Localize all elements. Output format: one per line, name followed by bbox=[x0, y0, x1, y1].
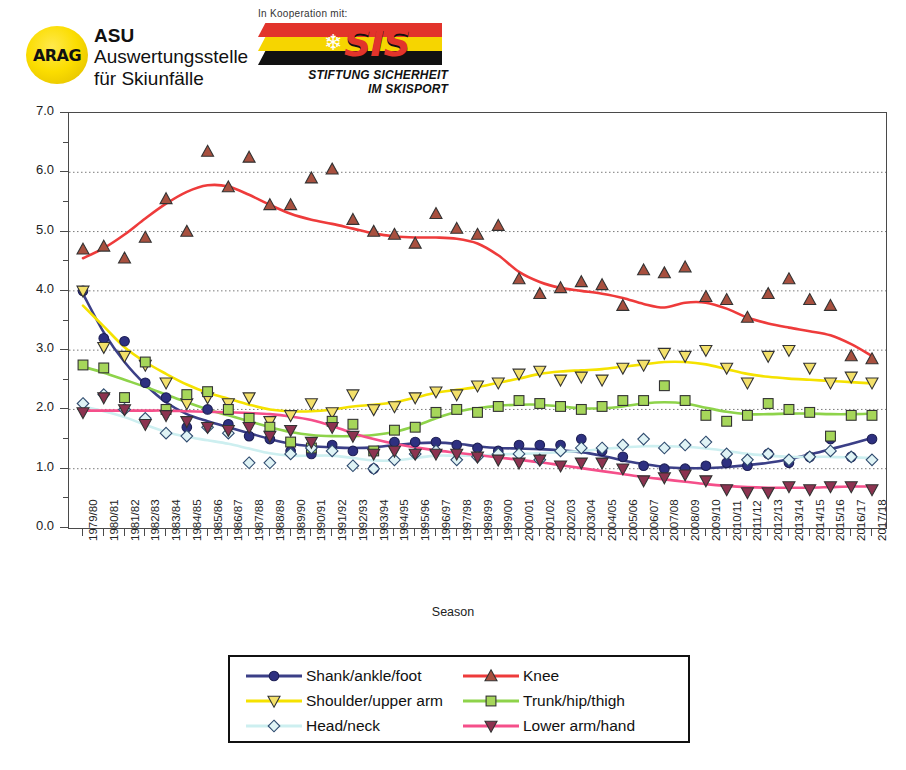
y-tick bbox=[60, 231, 68, 232]
y-tick-label: 4.0 bbox=[14, 281, 54, 296]
chart-legend: Shank/ankle/foot Knee Shoulder/upper arm… bbox=[228, 655, 690, 743]
x-tick-label: 2014/15 bbox=[814, 499, 826, 541]
x-tick bbox=[207, 529, 208, 536]
x-tick bbox=[103, 529, 104, 536]
x-tick-label: 2008/09 bbox=[689, 499, 701, 541]
x-tick bbox=[705, 529, 706, 536]
plot-svg bbox=[69, 113, 886, 528]
x-tick bbox=[767, 529, 768, 536]
x-tick-label: 2011/12 bbox=[751, 500, 763, 541]
legend-swatch-shank-ankle-foot bbox=[244, 665, 306, 687]
x-tick bbox=[352, 529, 353, 536]
x-tick bbox=[560, 529, 561, 536]
plot-area bbox=[68, 112, 887, 529]
sis-subtitle-1: STIFTUNG SICHERHEIT bbox=[258, 68, 448, 82]
x-tick-label: 1989/90 bbox=[295, 499, 307, 541]
x-tick bbox=[643, 529, 644, 536]
x-tick-label: 2002/03 bbox=[565, 499, 577, 541]
legend-item-knee: Knee bbox=[461, 665, 678, 687]
x-tick-label: 1999/00 bbox=[502, 499, 514, 541]
x-tick-label: 1996/97 bbox=[440, 499, 452, 541]
x-tick-label: 1995/96 bbox=[419, 499, 431, 541]
x-tick bbox=[248, 529, 249, 536]
x-tick-label: 1987/88 bbox=[253, 499, 265, 541]
legend-row: Shank/ankle/foot Knee bbox=[244, 663, 678, 688]
x-tick bbox=[497, 529, 498, 536]
x-tick bbox=[144, 529, 145, 536]
y-tick-minor bbox=[63, 260, 68, 261]
x-tick bbox=[124, 529, 125, 536]
x-tick bbox=[601, 529, 602, 536]
x-tick-label: 1979/80 bbox=[87, 499, 99, 541]
x-tick-label: 1992/93 bbox=[357, 499, 369, 541]
kooperation-label: In Kooperation mit: bbox=[258, 8, 448, 19]
x-tick-label: 2007/08 bbox=[668, 499, 680, 541]
x-tick-label: 1983/84 bbox=[170, 499, 182, 541]
y-tick bbox=[60, 408, 68, 409]
y-tick bbox=[60, 468, 68, 469]
x-tick bbox=[580, 529, 581, 536]
y-tick-minor bbox=[63, 201, 68, 202]
legend-label: Shank/ankle/foot bbox=[306, 667, 421, 685]
y-tick-minor bbox=[63, 438, 68, 439]
y-tick bbox=[60, 349, 68, 350]
legend-row: Shoulder/upper arm Trunk/hip/thigh bbox=[244, 688, 678, 713]
sis-subtitle-2: IM SKISPORT bbox=[258, 82, 448, 96]
x-tick-label: 2010/11 bbox=[731, 500, 743, 541]
x-tick-label: 1993/94 bbox=[378, 499, 390, 541]
y-tick-label: 0.0 bbox=[14, 518, 54, 533]
x-tick bbox=[373, 529, 374, 536]
y-tick bbox=[60, 112, 68, 113]
chart-container: 0.01.02.03.04.05.06.07.0 1979/801980/811… bbox=[0, 100, 906, 660]
x-tick bbox=[477, 529, 478, 536]
x-tick-label: 1998/99 bbox=[482, 499, 494, 541]
x-tick-label: 2017/18 bbox=[876, 499, 888, 541]
x-tick bbox=[663, 529, 664, 536]
x-tick-label: 2016/17 bbox=[855, 499, 867, 541]
legend-item-head-neck: Head/neck bbox=[244, 715, 461, 737]
x-tick bbox=[684, 529, 685, 536]
y-tick bbox=[60, 171, 68, 172]
x-tick-label: 2015/16 bbox=[834, 499, 846, 541]
legend-item-trunk-hip-thigh: Trunk/hip/thigh bbox=[461, 690, 678, 712]
x-tick bbox=[539, 529, 540, 536]
x-tick bbox=[310, 529, 311, 536]
y-tick-label: 3.0 bbox=[14, 340, 54, 355]
x-tick bbox=[518, 529, 519, 536]
y-tick-label: 6.0 bbox=[14, 162, 54, 177]
arag-logo-text: ARAG bbox=[33, 46, 81, 65]
x-tick-label: 2006/07 bbox=[648, 499, 660, 541]
x-tick bbox=[746, 529, 747, 536]
x-tick bbox=[622, 529, 623, 536]
y-tick-minor bbox=[63, 142, 68, 143]
legend-label: Shoulder/upper arm bbox=[306, 692, 443, 710]
x-tick-label: 2009/10 bbox=[710, 499, 722, 541]
legend-swatch-lower-arm-hand bbox=[461, 715, 523, 737]
x-tick bbox=[269, 529, 270, 536]
legend-label: Trunk/hip/thigh bbox=[523, 692, 625, 710]
y-tick bbox=[60, 290, 68, 291]
x-tick-label: 2003/04 bbox=[585, 499, 597, 541]
x-tick bbox=[414, 529, 415, 536]
asu-line-1: ASU bbox=[94, 26, 248, 46]
legend-label: Lower arm/hand bbox=[523, 717, 635, 735]
legend-item-lower-arm-hand: Lower arm/hand bbox=[461, 715, 678, 737]
x-tick bbox=[186, 529, 187, 536]
y-tick bbox=[60, 527, 68, 528]
x-tick bbox=[788, 529, 789, 536]
sis-logo-block: In Kooperation mit: ❄ SIS STIFTUNG SICHE… bbox=[258, 8, 448, 96]
x-tick bbox=[809, 529, 810, 536]
y-tick-minor bbox=[63, 320, 68, 321]
y-tick-label: 7.0 bbox=[14, 103, 54, 118]
asu-line-3: für Skiunfälle bbox=[94, 68, 248, 90]
legend-item-shoulder-upper-arm: Shoulder/upper arm bbox=[244, 690, 461, 712]
x-tick-label: 1985/86 bbox=[212, 499, 224, 541]
legend-label: Head/neck bbox=[306, 717, 380, 735]
x-tick-label: 1982/83 bbox=[149, 499, 161, 541]
legend-swatch-head-neck bbox=[244, 715, 306, 737]
x-tick bbox=[726, 529, 727, 536]
x-tick bbox=[227, 529, 228, 536]
y-tick-minor bbox=[63, 497, 68, 498]
x-tick-label: 1990/91 bbox=[315, 499, 327, 541]
snowflake-icon: ❄ bbox=[324, 32, 342, 54]
